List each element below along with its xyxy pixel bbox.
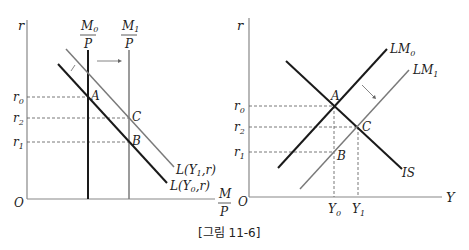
right-point-a: A <box>330 89 340 103</box>
left-point-a: A <box>90 89 100 103</box>
left-point-c: C <box>132 110 141 124</box>
right-origin-label: O <box>238 195 248 209</box>
lm0-curve <box>278 49 387 168</box>
right-r2-label: r2 <box>234 120 245 136</box>
y1-label: Y1 <box>352 202 365 218</box>
demand-y0-label: L(Y0,r) <box>169 179 210 194</box>
y0-label: Y0 <box>328 202 341 218</box>
right-r1-label: r1 <box>234 145 245 161</box>
left-point-b: B <box>131 134 141 148</box>
left-origin-label: O <box>14 196 24 210</box>
is-lm-panel: r O Y r0 r2 r1 Y0 Y1 LM0 LM1 IS A C B <box>234 18 456 218</box>
left-y-axis-label: r <box>18 18 25 33</box>
demand-shift-arrow <box>71 65 75 71</box>
left-r1-label: r1 <box>13 135 24 151</box>
money-demand-y0-line <box>58 64 167 183</box>
left-r2-label: r2 <box>13 111 24 127</box>
right-point-c: C <box>362 120 371 134</box>
m1-label-den: P <box>124 37 134 51</box>
money-demand-y1-line <box>66 49 174 167</box>
lm1-label: LM1 <box>412 63 438 79</box>
figure-caption: [그림 11-6] <box>198 226 260 240</box>
right-point-b: B <box>336 149 346 163</box>
m0-label-den: P <box>83 37 93 51</box>
is-label: IS <box>401 166 415 180</box>
right-y-axis-label: r <box>237 18 244 33</box>
lm1-curve <box>300 70 409 189</box>
left-x-axis-label-num: M <box>218 187 232 201</box>
right-x-axis-label: Y <box>446 190 456 205</box>
left-x-axis-label-den: P <box>219 205 229 219</box>
supply-shift-arrowhead <box>118 59 122 63</box>
right-r0-label: r0 <box>234 99 245 115</box>
m0-label-num: M0 <box>80 19 98 34</box>
m1-label-num: M1 <box>121 19 139 34</box>
demand-y1-label: L(Y1,r) <box>175 163 216 178</box>
diagram-canvas: r O M P r0 r2 r1 M0 P M1 P A <box>0 0 469 250</box>
money-market-panel: r O M P r0 r2 r1 M0 P M1 P A <box>13 18 232 219</box>
lm0-label: LM0 <box>389 42 415 58</box>
lm-shift-arrow <box>362 85 374 97</box>
left-r0-label: r0 <box>13 90 24 106</box>
